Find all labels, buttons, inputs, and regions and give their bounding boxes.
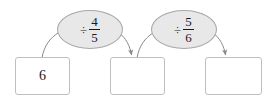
fraction-1: 4 5: [89, 15, 100, 44]
fraction-1-denominator: 5: [89, 30, 100, 44]
value-box-1[interactable]: 6: [15, 57, 70, 95]
arrow-box2-to-op2: [137, 33, 153, 58]
division-symbol-icon: ÷: [80, 23, 87, 36]
operation-ellipse-1: ÷ 4 5: [57, 10, 123, 49]
division-symbol-icon: ÷: [174, 23, 181, 36]
arrow-box1-to-op1: [42, 33, 58, 58]
fraction-1-numerator: 4: [89, 15, 100, 29]
value-box-3[interactable]: [205, 57, 262, 95]
operation-expression-1: ÷ 4 5: [80, 15, 100, 44]
operation-ellipse-2: ÷ 5 6: [151, 10, 217, 49]
operation-expression-2: ÷ 5 6: [174, 15, 194, 44]
fraction-2-numerator: 5: [183, 15, 194, 29]
function-machine-diagram: ÷ 4 5 ÷ 5 6 6: [0, 0, 266, 98]
value-box-1-label: 6: [39, 68, 46, 84]
fraction-2: 5 6: [183, 15, 194, 44]
value-box-2[interactable]: [110, 57, 165, 95]
fraction-2-denominator: 6: [183, 30, 194, 44]
